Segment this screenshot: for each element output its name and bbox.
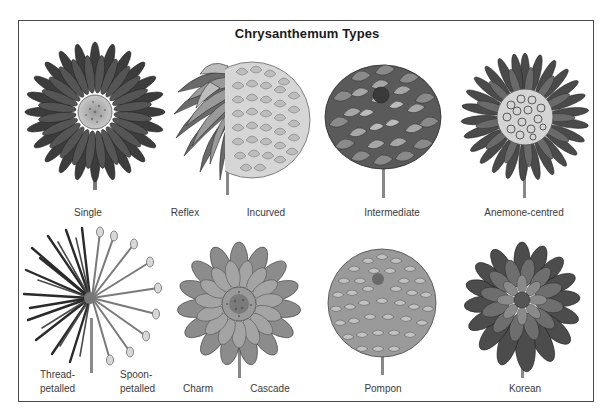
label-single: Single <box>74 207 102 219</box>
label-thread-line2: petalled <box>40 383 75 395</box>
reflex-incurved-flower-illustration <box>170 52 315 197</box>
single-flower-illustration <box>25 42 165 192</box>
charm-cascade-flower-illustration <box>172 238 307 378</box>
label-anemone-centred: Anemone-centred <box>484 207 564 219</box>
thread-spoon-flower-illustration <box>22 228 162 373</box>
label-cascade: Cascade <box>250 383 289 395</box>
label-intermediate: Intermediate <box>364 207 420 219</box>
anemone-centred-flower-illustration <box>455 55 595 200</box>
intermediate-flower-illustration <box>315 55 455 200</box>
korean-flower-illustration <box>455 248 590 378</box>
label-thread-line1: Thread- <box>40 369 75 381</box>
label-charm: Charm <box>183 383 213 395</box>
label-incurved: Incurved <box>247 207 285 219</box>
label-spoon-line1: Spoon- <box>120 369 152 381</box>
figure-title: Chrysanthemum Types <box>0 26 614 41</box>
label-pompon: Pompon <box>364 383 401 395</box>
pompon-flower-illustration <box>318 245 448 375</box>
label-spoon-line2: petalled <box>120 383 155 395</box>
label-korean: Korean <box>509 383 541 395</box>
label-reflex: Reflex <box>171 207 199 219</box>
